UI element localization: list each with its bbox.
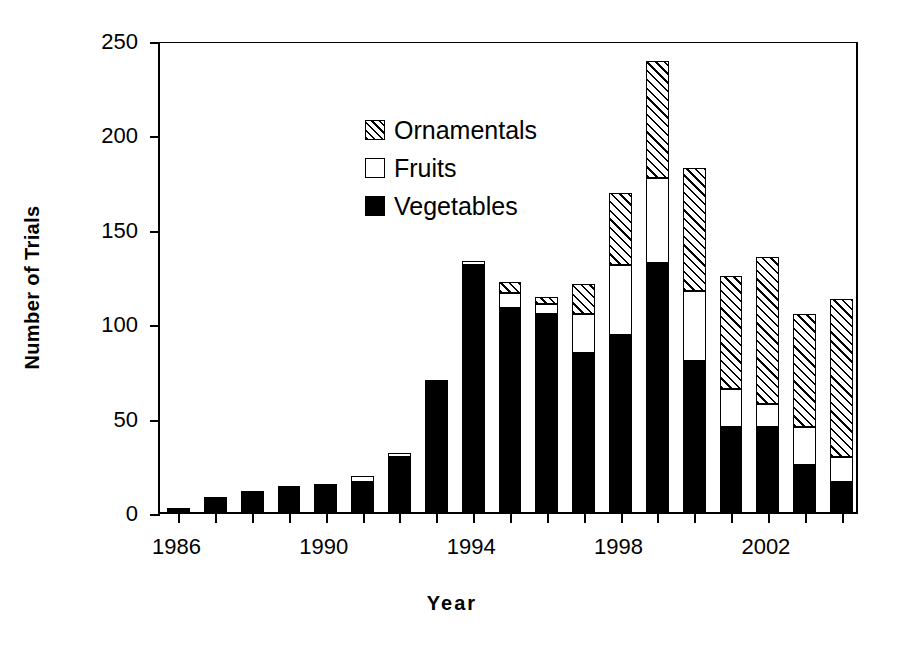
x-tick (621, 512, 623, 523)
white-swatch-icon (365, 158, 385, 178)
y-tick (150, 420, 160, 422)
black-swatch-icon (365, 196, 385, 216)
bar-segment-vegetables (793, 465, 816, 512)
x-tick (731, 512, 733, 523)
x-tick (363, 512, 365, 523)
bar-segment-ornamentals (535, 297, 558, 305)
bar-segment-vegetables (314, 484, 337, 512)
x-tick-label: 1994 (426, 536, 516, 558)
bar-segment-fruits (830, 457, 853, 482)
y-axis-title: Number of Trials (21, 138, 44, 438)
bar-segment-vegetables (204, 497, 227, 512)
bar-segment-fruits (756, 404, 779, 427)
bar-segment-ornamentals (499, 282, 522, 293)
bar-1996 (535, 40, 558, 512)
y-tick (150, 325, 160, 327)
bar-1986 (167, 40, 190, 512)
bar-1997 (572, 40, 595, 512)
legend-label-ornamentals: Ornamentals (394, 118, 537, 143)
bar-segment-vegetables (351, 482, 374, 512)
bar-2003 (793, 40, 816, 512)
legend-label-vegetables: Vegetables (394, 194, 518, 219)
bar-segment-fruits (499, 293, 522, 308)
legend-item-fruits: Fruits (365, 149, 537, 187)
bar-segment-ornamentals (572, 284, 595, 314)
bar-segment-fruits (683, 291, 706, 361)
x-tick-label: 1998 (574, 536, 664, 558)
bar-segment-ornamentals (646, 61, 669, 178)
bar-segment-ornamentals (683, 168, 706, 291)
bar-1998 (609, 40, 632, 512)
bar-segment-fruits (388, 453, 411, 457)
x-axis-title: Year (0, 592, 904, 615)
bar-segment-vegetables (720, 427, 743, 512)
x-tick (768, 512, 770, 523)
bar-segment-vegetables (646, 263, 669, 512)
bar-segment-vegetables (756, 427, 779, 512)
bar-segment-ornamentals (609, 193, 632, 265)
chart-legend: Ornamentals Fruits Vegetables (365, 111, 537, 225)
x-tick-label: 1990 (279, 536, 369, 558)
bar-segment-vegetables (462, 265, 485, 512)
bar-segment-fruits (609, 265, 632, 335)
x-tick (326, 512, 328, 523)
bar-segment-vegetables (609, 335, 632, 512)
bar-segment-fruits (351, 476, 374, 482)
bar-segment-vegetables (278, 486, 301, 512)
bar-1988 (241, 40, 264, 512)
bar-segment-ornamentals (830, 299, 853, 458)
x-tick (289, 512, 291, 523)
bar-segment-vegetables (499, 308, 522, 512)
y-tick (150, 136, 160, 138)
bar-1987 (204, 40, 227, 512)
x-tick (842, 512, 844, 523)
y-tick (150, 42, 160, 44)
bar-2001 (720, 40, 743, 512)
bar-segment-vegetables (388, 457, 411, 512)
bar-segment-vegetables (535, 314, 558, 512)
x-tick (215, 512, 217, 523)
y-tick-label: 50 (74, 409, 138, 431)
bar-segment-ornamentals (720, 276, 743, 389)
bar-segment-vegetables (830, 482, 853, 512)
hatched-swatch-icon (365, 120, 385, 140)
bar-segment-vegetables (425, 380, 448, 512)
x-tick (252, 512, 254, 523)
bar-segment-fruits (462, 261, 485, 265)
x-tick (473, 512, 475, 523)
chart-figure: Number of Trials Year 050100150200250 19… (0, 0, 904, 651)
x-tick (399, 512, 401, 523)
legend-label-fruits: Fruits (394, 156, 457, 181)
bar-segment-ornamentals (756, 257, 779, 404)
bar-1990 (314, 40, 337, 512)
y-tick-label: 150 (74, 220, 138, 242)
x-tick (510, 512, 512, 523)
y-tick (150, 231, 160, 233)
bar-segment-fruits (720, 389, 743, 427)
bar-segment-vegetables (683, 361, 706, 512)
bar-segment-vegetables (572, 353, 595, 512)
y-tick-label: 200 (74, 125, 138, 147)
x-tick-label: 1986 (131, 536, 221, 558)
x-tick (436, 512, 438, 523)
x-tick (805, 512, 807, 523)
x-tick (547, 512, 549, 523)
bar-segment-fruits (572, 314, 595, 354)
bar-2004 (830, 40, 853, 512)
x-tick (584, 512, 586, 523)
bar-segment-fruits (535, 304, 558, 313)
y-tick (150, 514, 160, 516)
x-tick (694, 512, 696, 523)
bar-segment-fruits (793, 427, 816, 465)
y-tick-label: 250 (74, 31, 138, 53)
y-tick-label: 100 (74, 314, 138, 336)
x-tick (657, 512, 659, 523)
x-tick (178, 512, 180, 523)
bar-1989 (278, 40, 301, 512)
y-tick-label: 0 (74, 503, 138, 525)
legend-item-vegetables: Vegetables (365, 187, 537, 225)
x-tick-label: 2002 (721, 536, 811, 558)
bar-1999 (646, 40, 669, 512)
bar-segment-fruits (646, 178, 669, 263)
legend-item-ornamentals: Ornamentals (365, 111, 537, 149)
